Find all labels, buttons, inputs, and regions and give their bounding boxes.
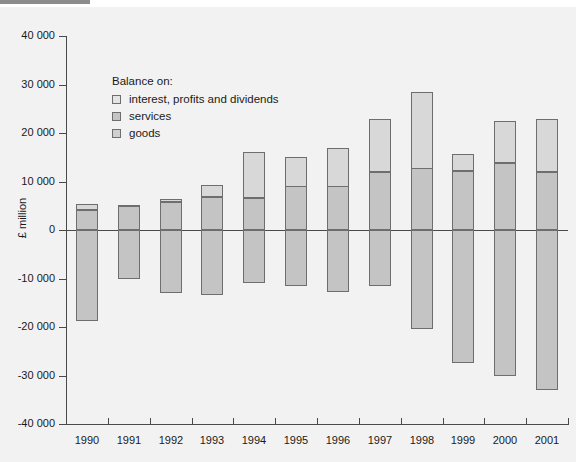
x-axis-tick-label: 1996 — [314, 434, 362, 446]
y-axis-tick-label: 10 000 — [0, 176, 55, 187]
bar-segment-goods — [369, 230, 391, 286]
legend-swatch-goods — [112, 129, 121, 138]
bar-segment-goods — [452, 230, 474, 363]
bar-segment-services — [536, 172, 558, 230]
bar-segment-goods — [243, 230, 265, 283]
bar-segment-interest-profits-dividends — [494, 121, 516, 163]
bar-segment-services — [411, 168, 433, 230]
bar-segment-interest-profits-dividends — [369, 119, 391, 172]
bar-segment-goods — [285, 230, 307, 286]
bar-segment-services — [118, 206, 140, 230]
bar-segment-goods — [201, 230, 223, 295]
bar-segment-interest-profits-dividends — [327, 148, 349, 187]
x-axis-tick-label: 1990 — [63, 434, 111, 446]
bar-segment-services — [452, 171, 474, 230]
y-axis-tick-label: -40 000 — [0, 418, 55, 429]
x-axis-tick-label: 1997 — [356, 434, 404, 446]
top-marker-bar — [0, 0, 90, 4]
y-axis-tick-label: -20 000 — [0, 321, 55, 332]
y-axis-tick-label: -30 000 — [0, 370, 55, 381]
bar-segment-services — [369, 172, 391, 230]
legend-item-services: services — [112, 110, 279, 122]
bar-segment-interest-profits-dividends — [243, 152, 265, 198]
bar-segment-services — [285, 186, 307, 230]
bar-segment-interest-profits-dividends — [76, 204, 98, 210]
legend-title: Balance on: — [112, 75, 279, 87]
bar-segment-services — [201, 197, 223, 230]
y-axis-tick-label: -10 000 — [0, 273, 55, 284]
bar-segment-goods — [118, 230, 140, 279]
legend-label: goods — [129, 127, 160, 139]
bar-segment-services — [494, 163, 516, 230]
chart-figure: £ million 40 00030 00020 00010 0000-10 0… — [0, 7, 576, 462]
bar-segment-goods — [160, 230, 182, 293]
x-axis-tick-label: 1993 — [188, 434, 236, 446]
bar-segment-interest-profits-dividends — [536, 119, 558, 172]
legend-swatch-services — [112, 112, 121, 121]
x-axis-tick-label: 1995 — [272, 434, 320, 446]
bar-segment-goods — [536, 230, 558, 390]
bar-segment-interest-profits-dividends — [452, 154, 474, 171]
y-axis-tick-label: 30 000 — [0, 79, 55, 90]
bar-segment-interest-profits-dividends — [160, 199, 182, 202]
bar-segment-goods — [327, 230, 349, 292]
y-axis-title: £ million — [16, 178, 28, 258]
bar-segment-goods — [411, 230, 433, 329]
bar-segment-interest-profits-dividends — [411, 92, 433, 169]
bar-segment-services — [243, 198, 265, 230]
y-axis-tick-label: 20 000 — [0, 127, 55, 138]
bar-segment-interest-profits-dividends — [201, 185, 223, 197]
y-axis-tick-label: 0 — [0, 224, 55, 235]
bar-segment-goods — [494, 230, 516, 376]
legend-items: interest, profits and dividendsservicesg… — [112, 93, 279, 139]
legend-label: services — [129, 110, 171, 122]
bar-segment-goods — [76, 230, 98, 321]
x-axis-tick-label: 1994 — [230, 434, 278, 446]
legend-item-goods: goods — [112, 127, 279, 139]
x-axis-tick-label: 1999 — [439, 434, 487, 446]
bar-segment-services — [327, 186, 349, 230]
bar-segment-interest-profits-dividends — [118, 205, 140, 207]
bar-segment-interest-profits-dividends — [285, 157, 307, 187]
legend-item-ipd: interest, profits and dividends — [112, 93, 279, 105]
x-axis-tick-label: 2000 — [481, 434, 529, 446]
legend-swatch-ipd — [112, 95, 121, 104]
legend-label: interest, profits and dividends — [129, 93, 279, 105]
x-axis-tick-label: 2001 — [523, 434, 571, 446]
chart-legend: Balance on: interest, profits and divide… — [112, 75, 279, 144]
y-axis-tick-label: 40 000 — [0, 30, 55, 41]
x-axis-tick-label: 1991 — [105, 434, 153, 446]
x-axis-tick — [568, 418, 569, 425]
bar-segment-services — [160, 202, 182, 230]
bar-segment-services — [76, 210, 98, 230]
